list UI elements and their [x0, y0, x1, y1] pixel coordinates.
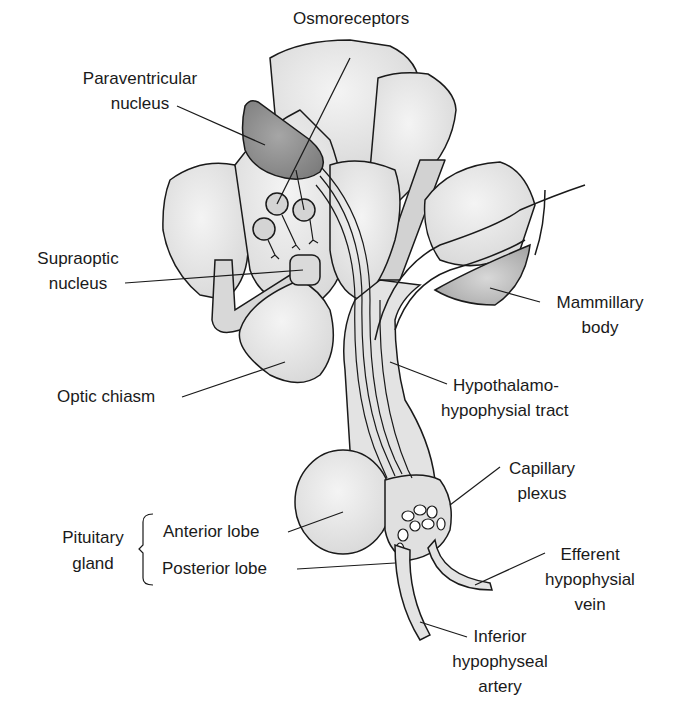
supraoptic-nucleus-shape: [290, 255, 320, 285]
label-inferior-line2: hypophyseal: [440, 651, 560, 672]
label-paraventricular-line2: nucleus: [60, 93, 220, 114]
label-capillary-line2: plexus: [492, 483, 592, 504]
leader-optic-chiasm: [182, 362, 285, 397]
label-optic-chiasm: Optic chiasm: [57, 386, 155, 407]
label-paraventricular-line1: Paraventricular: [60, 68, 220, 89]
label-posterior-lobe: Posterior lobe: [162, 558, 267, 579]
optic-chiasm-shape: [239, 280, 333, 383]
label-supraoptic-line2: nucleus: [18, 273, 138, 294]
label-efferent-line2: hypophysial: [525, 569, 655, 590]
label-anterior-lobe: Anterior lobe: [163, 521, 259, 542]
label-tract-line2: hypophysial tract: [441, 400, 569, 421]
label-supraoptic-line1: Supraoptic: [18, 248, 138, 269]
label-tract-line1: Hypothalamo-: [453, 375, 559, 396]
label-efferent-line3: vein: [525, 594, 655, 615]
label-pituitary-line2: gland: [48, 553, 138, 574]
label-pituitary-line1: Pituitary: [48, 527, 138, 548]
label-mammillary-line1: Mammillary: [540, 292, 660, 313]
pituitary-bracket: [139, 514, 153, 585]
label-mammillary-line2: body: [540, 317, 660, 338]
label-capillary-line1: Capillary: [492, 458, 592, 479]
leader-posterior: [297, 563, 395, 569]
label-efferent-line1: Efferent: [525, 544, 655, 565]
anterior-lobe-shape: [295, 450, 391, 554]
label-inferior-line3: artery: [440, 676, 560, 697]
label-inferior-line1: Inferior: [440, 626, 560, 647]
label-osmoreceptors: Osmoreceptors: [293, 8, 409, 29]
